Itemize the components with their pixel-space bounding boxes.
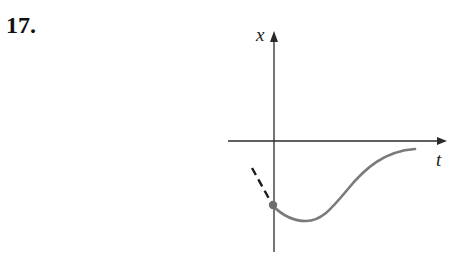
x-axis-label: x bbox=[255, 24, 265, 45]
dashed-extension bbox=[252, 168, 272, 204]
solution-curve bbox=[273, 149, 415, 221]
initial-point bbox=[269, 201, 277, 209]
t-axis-label: t bbox=[436, 149, 442, 170]
t-axis-arrow-icon bbox=[437, 137, 447, 145]
x-axis-arrow-icon bbox=[270, 31, 278, 42]
phase-graph: x t bbox=[0, 0, 461, 255]
